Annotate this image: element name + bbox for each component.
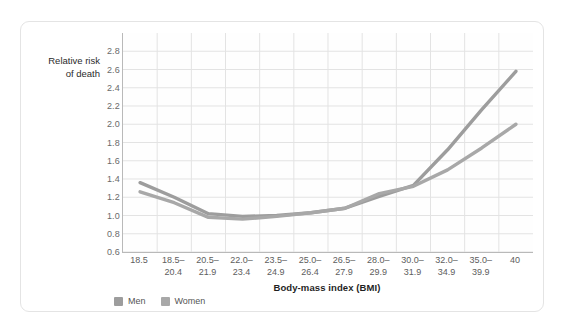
- x-tick-label: 40: [492, 255, 538, 267]
- y-axis-title-line-2: of death: [22, 68, 100, 81]
- y-tick-label: 2.6: [96, 65, 120, 75]
- x-tick-label-line: 39.9: [458, 267, 504, 279]
- legend-label: Men: [128, 296, 146, 306]
- y-axis-title: Relative risk of death: [22, 55, 100, 80]
- chart-container: Relative risk of death 2.82.62.42.22.01.…: [0, 0, 566, 333]
- x-axis-tick-labels: 18.518.5–20.420.5–21.922.0–23.423.5–24.9…: [122, 255, 532, 283]
- legend-item-men[interactable]: Men: [114, 296, 146, 306]
- legend-label: Women: [175, 296, 206, 306]
- legend-item-women[interactable]: Women: [161, 296, 206, 306]
- y-tick-label: 2.4: [96, 83, 120, 93]
- y-tick-label: 0.8: [96, 229, 120, 239]
- y-axis-tick-labels: 2.82.62.42.22.01.81.61.41.21.00.80.6: [96, 33, 120, 252]
- legend-swatch-icon: [161, 297, 170, 306]
- y-tick-label: 1.4: [96, 174, 120, 184]
- legend-swatch-icon: [114, 297, 123, 306]
- y-tick-label: 1.2: [96, 192, 120, 202]
- x-axis-title: Body-mass index (BMI): [122, 282, 532, 293]
- y-tick-label: 1.8: [96, 138, 120, 148]
- y-tick-label: 2.0: [96, 119, 120, 129]
- y-tick-label: 2.2: [96, 101, 120, 111]
- x-tick-label-line: 40: [492, 255, 538, 267]
- chart-legend: MenWomen: [114, 296, 205, 306]
- y-axis-title-line-1: Relative risk: [22, 55, 100, 68]
- plot-area: [122, 33, 533, 253]
- y-tick-label: 1.0: [96, 211, 120, 221]
- y-tick-label: 2.8: [96, 46, 120, 56]
- y-tick-label: 1.6: [96, 156, 120, 166]
- chart-svg: [123, 33, 533, 252]
